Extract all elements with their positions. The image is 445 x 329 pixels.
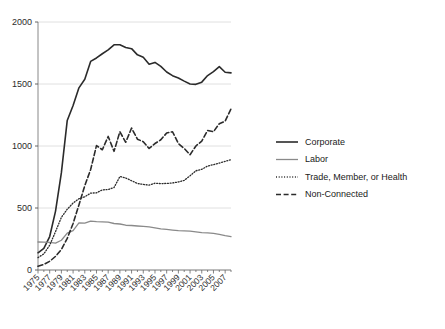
legend-label-3: Trade, Member, or Health [305, 172, 407, 182]
chart-container: 0500100015002000 19751977197919811983198… [0, 0, 445, 329]
legend-label-4: Non-Connected [305, 189, 368, 199]
series-line-corporate [38, 45, 231, 253]
data-series [38, 45, 231, 267]
y-tick-label: 1000 [12, 141, 32, 151]
legend-label-1: Corporate [305, 137, 345, 147]
chart-legend: CorporateLaborTrade, Member, or HealthNo… [276, 137, 407, 200]
y-tick-label: 1500 [12, 79, 32, 89]
y-axis: 0500100015002000 [12, 17, 38, 275]
series-line-non-connected [38, 109, 231, 266]
y-tick-label: 2000 [12, 17, 32, 27]
series-line-trade-member-or-health [38, 160, 231, 258]
y-tick-label: 0 [27, 265, 32, 275]
legend-label-2: Labor [305, 154, 328, 164]
line-chart: 0500100015002000 19751977197919811983198… [0, 0, 445, 329]
y-tick-label: 500 [17, 203, 32, 213]
x-axis: 1975197719791981198319851987198919911993… [21, 270, 231, 293]
